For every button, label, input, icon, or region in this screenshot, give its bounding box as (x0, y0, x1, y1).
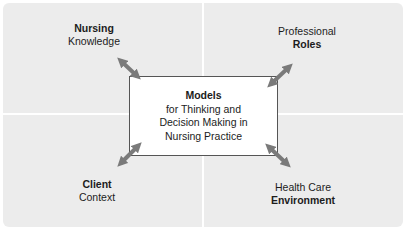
label-line-1: Client (37, 178, 157, 191)
label-line-1: Health Care (243, 181, 363, 194)
center-models-box: Models for Thinking and Decision Making … (129, 76, 278, 156)
center-line-2: Decision Making in (130, 116, 277, 130)
center-line-1: for Thinking and (130, 103, 277, 117)
label-line-2: Roles (247, 38, 367, 51)
label-professional-roles: Professional Roles (247, 25, 367, 51)
label-health-care-environment: Health Care Environment (243, 181, 363, 207)
label-nursing-knowledge: Nursing Knowledge (34, 22, 154, 48)
label-line-2: Environment (243, 194, 363, 207)
label-client-context: Client Context (37, 178, 157, 204)
center-title: Models (130, 89, 277, 103)
label-line-1: Professional (247, 25, 367, 38)
center-line-3: Nursing Practice (130, 130, 277, 144)
label-line-2: Context (37, 191, 157, 204)
label-line-1: Nursing (34, 22, 154, 35)
label-line-2: Knowledge (34, 35, 154, 48)
